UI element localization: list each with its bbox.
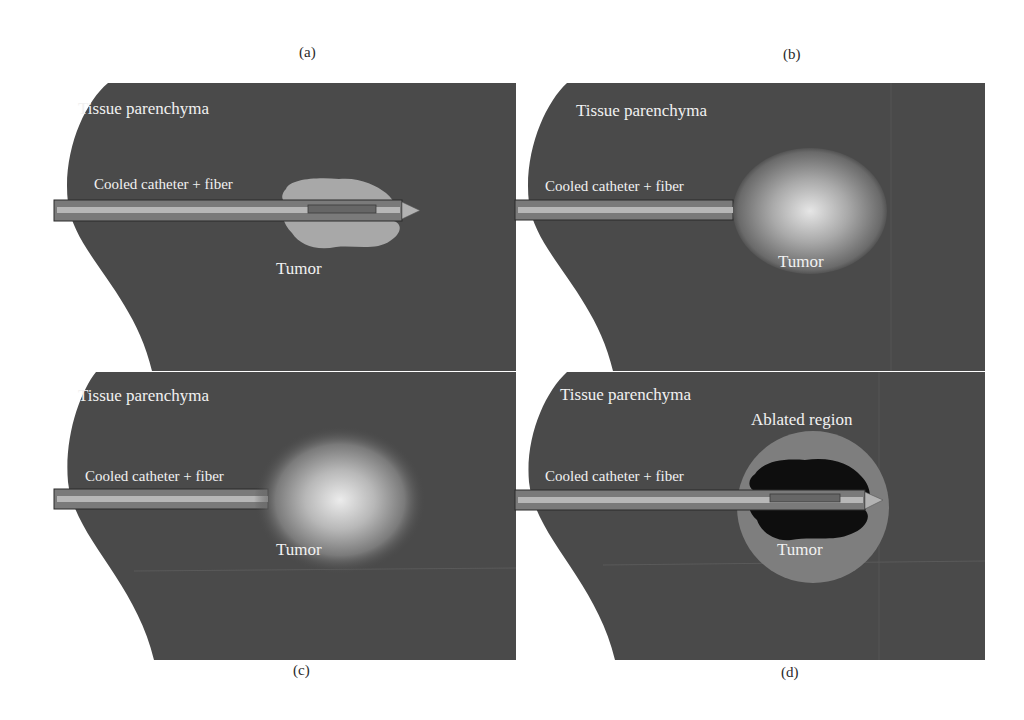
tumor-label-c: Tumor <box>276 540 322 560</box>
panel-d: Tissue parenchyma Ablated region Cooled … <box>515 372 985 660</box>
catheter-icon <box>515 200 733 220</box>
tumor-label-a: Tumor <box>276 259 322 279</box>
panel-b-graphic <box>515 83 985 371</box>
tissue-label-d: Tissue parenchyma <box>560 385 691 405</box>
catheter-label-c: Cooled catheter + fiber <box>85 468 224 485</box>
catheter-icon <box>515 490 883 510</box>
panel-a: Tissue parenchyma Cooled catheter + fibe… <box>54 83 516 371</box>
tissue-label-c: Tissue parenchyma <box>78 386 209 406</box>
panel-label-d: (d) <box>781 664 799 681</box>
panel-c-graphic <box>54 372 516 660</box>
catheter-label-a: Cooled catheter + fiber <box>94 176 233 193</box>
catheter-label-b: Cooled catheter + fiber <box>545 178 684 195</box>
catheter-icon <box>54 200 420 221</box>
panel-label-a: (a) <box>299 44 316 61</box>
tissue-label-b: Tissue parenchyma <box>576 101 707 121</box>
tumor-label-b: Tumor <box>778 252 824 272</box>
tumor-label-d: Tumor <box>777 540 823 560</box>
panel-label-b: (b) <box>783 46 801 63</box>
panel-d-graphic <box>515 372 985 660</box>
panel-c: Tissue parenchyma Cooled catheter + fibe… <box>54 372 516 660</box>
panel-a-graphic <box>54 83 516 371</box>
panel-label-c: (c) <box>293 662 310 679</box>
panel-b: Tissue parenchyma Cooled catheter + fibe… <box>515 83 985 371</box>
catheter-label-d: Cooled catheter + fiber <box>545 468 684 485</box>
catheter-icon <box>54 489 268 509</box>
ablated-region-label: Ablated region <box>751 410 853 430</box>
tissue-label-a: Tissue parenchyma <box>78 99 209 119</box>
